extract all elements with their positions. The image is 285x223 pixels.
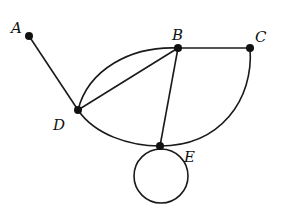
node-a — [25, 32, 33, 40]
node-b — [174, 44, 182, 52]
node-c — [246, 44, 254, 52]
label-d: D — [52, 116, 65, 134]
edge-c-e-curved — [160, 48, 250, 146]
node-d — [74, 106, 82, 114]
label-a: A — [9, 19, 22, 37]
loop-e — [134, 149, 188, 203]
edge-d-b-straight — [78, 48, 178, 110]
edge-a-d — [29, 36, 78, 110]
graph-diagram: A B C D E — [0, 0, 285, 223]
node-e — [156, 142, 164, 150]
label-c: C — [255, 28, 267, 46]
label-b: B — [171, 26, 183, 44]
label-e: E — [183, 148, 195, 166]
edge-d-e-curved — [78, 110, 160, 146]
edge-b-e — [160, 48, 178, 146]
